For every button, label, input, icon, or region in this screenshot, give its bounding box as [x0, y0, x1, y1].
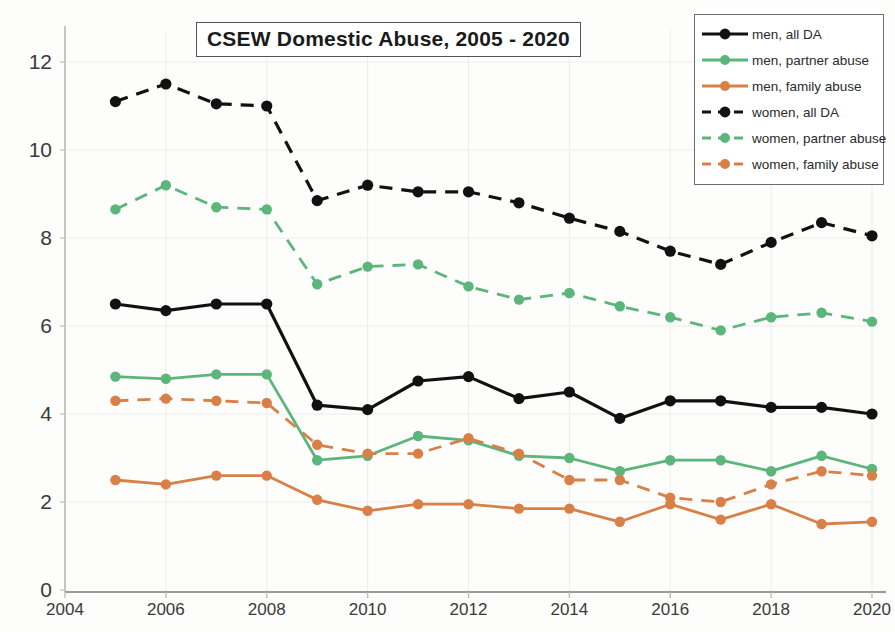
data-point[interactable] — [463, 433, 473, 443]
data-point[interactable] — [715, 325, 725, 335]
legend-item[interactable]: men, all DA — [701, 21, 877, 47]
data-point[interactable] — [615, 517, 625, 527]
data-point[interactable] — [715, 455, 725, 465]
legend-item[interactable]: women, all DA — [701, 99, 877, 125]
data-point[interactable] — [463, 499, 473, 509]
series-women-partner-abuse[interactable] — [110, 180, 877, 336]
data-point[interactable] — [564, 213, 575, 224]
data-point[interactable] — [665, 246, 676, 257]
data-point[interactable] — [412, 186, 423, 197]
data-point[interactable] — [614, 226, 625, 237]
data-point[interactable] — [262, 204, 272, 214]
data-point[interactable] — [211, 202, 221, 212]
data-point[interactable] — [866, 230, 877, 241]
data-point[interactable] — [161, 393, 171, 403]
data-point[interactable] — [110, 96, 121, 107]
data-point[interactable] — [262, 369, 272, 379]
data-point[interactable] — [513, 197, 524, 208]
data-point[interactable] — [312, 455, 322, 465]
data-point[interactable] — [463, 186, 474, 197]
data-point[interactable] — [615, 301, 625, 311]
data-point[interactable] — [312, 279, 322, 289]
data-point[interactable] — [362, 404, 373, 415]
legend-item[interactable]: men, partner abuse — [701, 47, 877, 73]
data-point[interactable] — [312, 400, 323, 411]
data-point[interactable] — [766, 499, 776, 509]
data-point[interactable] — [715, 497, 725, 507]
data-point[interactable] — [362, 506, 372, 516]
data-point[interactable] — [866, 408, 877, 419]
data-point[interactable] — [211, 369, 221, 379]
data-point[interactable] — [564, 453, 574, 463]
data-point[interactable] — [665, 455, 675, 465]
data-point[interactable] — [261, 298, 272, 309]
data-point[interactable] — [211, 396, 221, 406]
data-point[interactable] — [867, 470, 877, 480]
data-point[interactable] — [160, 305, 171, 316]
data-point[interactable] — [262, 398, 272, 408]
data-point[interactable] — [312, 195, 323, 206]
data-point[interactable] — [463, 281, 473, 291]
data-point[interactable] — [715, 395, 726, 406]
data-point[interactable] — [312, 495, 322, 505]
data-point[interactable] — [110, 204, 120, 214]
data-point[interactable] — [766, 479, 776, 489]
data-point[interactable] — [514, 503, 524, 513]
legend-item[interactable]: women, family abuse — [701, 151, 877, 177]
data-point[interactable] — [715, 259, 726, 270]
data-point[interactable] — [766, 402, 777, 413]
data-point[interactable] — [816, 519, 826, 529]
data-point[interactable] — [867, 316, 877, 326]
data-point[interactable] — [110, 371, 120, 381]
data-point[interactable] — [766, 237, 777, 248]
data-point[interactable] — [211, 98, 222, 109]
data-point[interactable] — [564, 288, 574, 298]
data-point[interactable] — [514, 294, 524, 304]
data-point[interactable] — [362, 448, 372, 458]
data-point[interactable] — [413, 499, 423, 509]
data-point[interactable] — [665, 492, 675, 502]
data-point[interactable] — [766, 312, 776, 322]
data-point[interactable] — [312, 440, 322, 450]
legend-item[interactable]: women, partner abuse — [701, 125, 877, 151]
data-point[interactable] — [816, 217, 827, 228]
data-point[interactable] — [211, 470, 221, 480]
data-point[interactable] — [513, 393, 524, 404]
data-point[interactable] — [816, 308, 826, 318]
data-point[interactable] — [766, 466, 776, 476]
data-point[interactable] — [110, 298, 121, 309]
data-point[interactable] — [413, 259, 423, 269]
data-point[interactable] — [161, 180, 171, 190]
legend-item[interactable]: men, family abuse — [701, 73, 877, 99]
data-point[interactable] — [564, 475, 574, 485]
data-point[interactable] — [463, 371, 474, 382]
data-point[interactable] — [362, 261, 372, 271]
data-point[interactable] — [614, 413, 625, 424]
data-point[interactable] — [715, 514, 725, 524]
data-point[interactable] — [816, 466, 826, 476]
data-point[interactable] — [412, 375, 423, 386]
data-point[interactable] — [413, 431, 423, 441]
data-point[interactable] — [262, 470, 272, 480]
data-point[interactable] — [665, 312, 675, 322]
data-point[interactable] — [665, 395, 676, 406]
series-men-all-da[interactable] — [110, 298, 878, 424]
data-point[interactable] — [211, 298, 222, 309]
data-point[interactable] — [110, 396, 120, 406]
data-point[interactable] — [160, 78, 171, 89]
series-men-partner-abuse[interactable] — [110, 369, 877, 476]
data-point[interactable] — [514, 448, 524, 458]
data-point[interactable] — [261, 100, 272, 111]
data-point[interactable] — [362, 180, 373, 191]
data-point[interactable] — [413, 448, 423, 458]
data-point[interactable] — [161, 479, 171, 489]
data-point[interactable] — [615, 475, 625, 485]
data-point[interactable] — [816, 451, 826, 461]
series-men-family-abuse[interactable] — [110, 470, 877, 529]
series-women-family-abuse[interactable] — [110, 393, 877, 507]
data-point[interactable] — [816, 402, 827, 413]
data-point[interactable] — [867, 517, 877, 527]
data-point[interactable] — [110, 475, 120, 485]
data-point[interactable] — [564, 386, 575, 397]
data-point[interactable] — [161, 374, 171, 384]
